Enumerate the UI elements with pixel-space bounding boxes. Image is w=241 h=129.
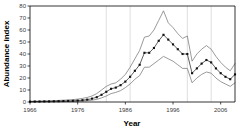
data-point-marker	[139, 64, 141, 66]
chart-figure: 01020304050607080 19661976198619962006 A…	[0, 0, 241, 129]
data-point-marker	[229, 78, 231, 80]
data-point-marker	[220, 72, 222, 74]
data-point-marker	[162, 34, 164, 36]
y-tick-label-50: 50	[19, 39, 26, 45]
x-tick-label-1966: 1966	[23, 107, 37, 113]
plot-background	[30, 6, 235, 102]
data-point-marker	[201, 63, 203, 65]
data-point-marker	[77, 100, 79, 102]
x-tick-label-1986: 1986	[119, 107, 133, 113]
data-point-marker	[120, 84, 122, 86]
data-point-marker	[191, 72, 193, 74]
data-point-marker	[91, 98, 93, 100]
x-axis-ticks: 19661976198619962006	[23, 102, 228, 113]
data-point-marker	[148, 52, 150, 54]
y-axis-ticks: 01020304050607080	[19, 3, 30, 105]
data-point-marker	[129, 76, 131, 78]
y-tick-label-20: 20	[19, 75, 26, 81]
data-point-marker	[177, 48, 179, 50]
data-point-marker	[172, 43, 174, 45]
y-axis-title: Abundance index	[2, 20, 11, 87]
data-point-marker	[205, 59, 207, 61]
data-point-marker	[196, 67, 198, 69]
x-tick-label-2006: 2006	[214, 107, 228, 113]
y-tick-label-80: 80	[19, 3, 26, 9]
data-point-marker	[134, 70, 136, 72]
x-axis-title: Year	[124, 119, 141, 128]
data-point-marker	[153, 47, 155, 49]
y-tick-label-0: 0	[23, 99, 27, 105]
data-point-marker	[124, 81, 126, 83]
data-point-marker	[115, 87, 117, 89]
data-point-marker	[72, 100, 74, 102]
data-point-marker	[100, 94, 102, 96]
data-point-marker	[158, 40, 160, 42]
data-point-marker	[96, 96, 98, 98]
data-point-marker	[210, 61, 212, 63]
data-point-marker	[105, 91, 107, 93]
data-point-marker	[182, 53, 184, 55]
data-point-marker	[215, 67, 217, 69]
data-point-marker	[143, 52, 145, 54]
data-point-marker	[86, 99, 88, 101]
data-point-marker	[186, 53, 188, 55]
data-point-marker	[167, 39, 169, 41]
y-tick-label-10: 10	[19, 87, 26, 93]
data-point-marker	[224, 76, 226, 78]
data-point-marker	[110, 88, 112, 90]
y-tick-label-40: 40	[19, 51, 26, 57]
y-tick-label-60: 60	[19, 27, 26, 33]
y-tick-label-30: 30	[19, 63, 26, 69]
data-point-marker	[81, 99, 83, 101]
y-tick-label-70: 70	[19, 15, 26, 21]
abundance-index-line-chart: 01020304050607080 19661976198619962006 A…	[0, 0, 241, 129]
x-tick-label-1996: 1996	[166, 107, 180, 113]
x-tick-label-1976: 1976	[71, 107, 85, 113]
